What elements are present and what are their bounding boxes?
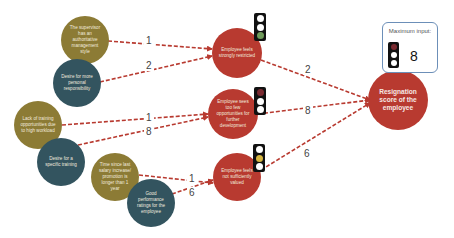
factor-node-personal-responsibility: Desire for more personal responsibility — [53, 59, 101, 107]
factor-label: Desire for a specific training — [43, 156, 79, 168]
lamp-off — [256, 146, 263, 153]
lamp-off — [257, 15, 264, 22]
factor-node-performance-ratings: Good performance ratings for the employe… — [127, 179, 175, 227]
traffic-light-red-icon — [388, 42, 399, 68]
lamp-off — [256, 163, 263, 170]
result-node-resignation-score: Resignation score of the employee — [368, 70, 428, 130]
factor-label: The supervisor has an authoritative mana… — [67, 25, 103, 55]
edge-weight: 6 — [302, 148, 312, 159]
edge-f3-i2 — [62, 114, 208, 125]
edge-weight: 6 — [187, 187, 197, 198]
edge-weight: 8 — [303, 105, 313, 116]
indicator-label: Employee sees too few opportunities for … — [214, 99, 252, 129]
factor-label: Desire for more personal responsibility — [59, 74, 95, 92]
maximum-input-value: 8 — [410, 48, 418, 64]
factor-label: Good performance ratings for the employe… — [133, 191, 169, 215]
indicator-node-development: Employee sees too few opportunities for … — [208, 89, 258, 139]
edge-i2-result — [258, 100, 370, 114]
lamp-yellow — [256, 155, 263, 162]
factor-label: Time since last salary increase/ promoti… — [97, 162, 133, 192]
indicator-label: Employee feels strongly restricted — [218, 47, 256, 59]
edge-i3-result — [261, 103, 370, 170]
factor-node-authoritative-supervisor: The supervisor has an authoritative mana… — [61, 16, 109, 64]
resignation-influence-diagram: 1 2 1 8 1 6 2 8 6 The supervisor has an … — [0, 0, 454, 238]
edge-weight: 1 — [187, 173, 197, 184]
edge-weight: 1 — [144, 35, 154, 46]
edge-weight: 2 — [303, 64, 313, 75]
result-label: Resignation score of the employee — [374, 88, 422, 112]
edge-f2-i1 — [100, 56, 212, 82]
edge-f4-i2 — [78, 117, 208, 145]
traffic-light-yellow-icon — [253, 144, 265, 172]
lamp-off — [257, 98, 264, 105]
lamp-green — [257, 32, 264, 39]
indicator-label: Employee feels not sufficiently valued — [219, 168, 255, 186]
factor-node-specific-training: Desire for a specific training — [37, 138, 85, 186]
lamp-off — [257, 24, 264, 31]
maximum-input-box: Maximum input: 8 — [382, 22, 438, 73]
edge-weight: 2 — [144, 60, 154, 71]
edge-weight: 8 — [144, 126, 154, 137]
maximum-input-caption: Maximum input: — [383, 28, 437, 35]
edge-weight: 1 — [144, 112, 154, 123]
lamp-off — [391, 60, 397, 66]
lamp-red — [257, 89, 264, 96]
factor-label: Lack of training opportunities due to hi… — [20, 116, 56, 134]
traffic-light-green-icon — [254, 13, 266, 41]
edge-f1-i1 — [108, 41, 212, 49]
edge-i1-result — [261, 60, 370, 100]
lamp-off — [391, 52, 397, 58]
traffic-light-red-icon — [254, 87, 266, 115]
lamp-off — [257, 106, 264, 113]
lamp-red — [391, 44, 397, 50]
